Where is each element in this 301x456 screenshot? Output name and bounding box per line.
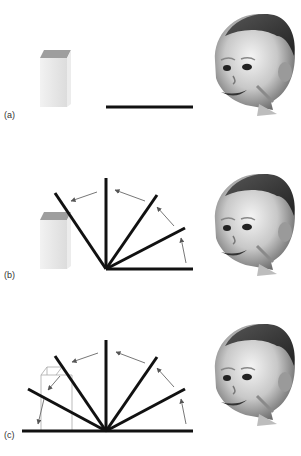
panel-label-c: (c) xyxy=(4,430,15,440)
screen-positions xyxy=(22,340,193,431)
panel-a: (a) xyxy=(0,0,301,150)
infant-face-image xyxy=(207,6,299,118)
infant-face-image xyxy=(207,166,299,278)
panel-label-b: (b) xyxy=(4,270,15,280)
box xyxy=(40,212,71,269)
infant-face-image xyxy=(207,316,299,428)
panel-label-a: (a) xyxy=(4,110,15,120)
rotation-arrows xyxy=(71,190,186,263)
panel-b: (b) xyxy=(0,150,301,300)
box xyxy=(40,50,71,107)
panel-c: (c) xyxy=(0,300,301,456)
